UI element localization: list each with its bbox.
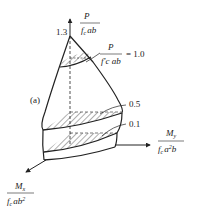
my-axis-label: My fca2b xyxy=(158,128,184,155)
svg-text:Mx: Mx xyxy=(14,181,26,192)
interaction-surface-diagram: 1.3 (a) P fcab P f'c ab = 1.0 0.5 0.1 My… xyxy=(0,0,197,217)
mx-axis xyxy=(26,160,46,172)
svg-text:My: My xyxy=(165,128,177,139)
svg-text:fcab2: fcab2 xyxy=(7,196,25,207)
svg-text:fca2b: fca2b xyxy=(158,144,177,155)
panel-label: (a) xyxy=(30,95,40,105)
svg-text:fcab: fcab xyxy=(81,25,97,36)
section-0-5 xyxy=(43,112,122,130)
svg-text:= 1.0: = 1.0 xyxy=(126,49,145,59)
vertical-axis-label: P fcab xyxy=(80,11,100,36)
section-1-0-label: P f'c ab = 1.0 xyxy=(100,42,145,66)
apex-value: 1.3 xyxy=(56,27,68,37)
section-0-1-label: 0.1 xyxy=(129,119,140,129)
svg-text:f'c ab: f'c ab xyxy=(101,56,121,66)
svg-text:P: P xyxy=(107,42,114,52)
section-0-5-label: 0.5 xyxy=(129,99,141,109)
mx-axis-label: Mx fcab2 xyxy=(7,181,34,207)
svg-text:P: P xyxy=(83,11,90,21)
